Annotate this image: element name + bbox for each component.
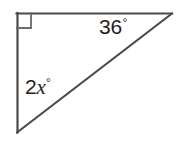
angle-36-value: 36 xyxy=(99,15,122,38)
angle-2x-variable: x xyxy=(36,75,45,99)
angle-2x-coefficient: 2 xyxy=(25,75,36,98)
right-angle-marker-icon xyxy=(17,14,31,29)
degree-symbol-icon: ° xyxy=(122,16,127,30)
angle-label-36-degrees: 36° xyxy=(99,16,127,37)
angle-label-2x-degrees: 2x° xyxy=(25,76,51,98)
triangle-hypotenuse xyxy=(17,14,172,133)
degree-symbol-icon: ° xyxy=(46,76,51,90)
geometry-figure: 36° 2x° xyxy=(0,0,182,151)
